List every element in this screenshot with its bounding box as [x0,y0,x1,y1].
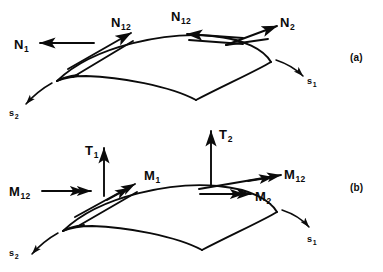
arrow-N2 [226,26,277,45]
coord-axis-s1-a [276,60,303,76]
label-M2: M2 [255,188,271,204]
label-s1-b-sub: 1 [313,239,317,246]
shell-element-b [63,185,277,250]
label-s1-panel-a: s1 [307,71,316,87]
label-M12-right-base: M [284,167,295,182]
label-M1-base: M [144,168,155,183]
panel-label-b: (b) [350,182,363,193]
label-M12-right-sub: 12 [296,174,306,184]
label-s2-b-base: s [9,248,14,258]
label-N12-right-sub: 12 [181,16,191,26]
label-M12-right: M12 [284,166,305,182]
label-T1-sub: 1 [94,150,99,160]
panel-label-a: (a) [350,52,363,63]
panel-a-graphics [26,26,303,104]
shell-b-bottom-edge [63,226,202,250]
shell-a-bottom-edge [57,76,196,100]
label-M2-base: M [255,189,266,204]
label-N1-sub: 1 [24,44,29,54]
label-N12-left: N12 [111,14,130,30]
label-M1-sub: 1 [156,175,161,185]
label-s2-panel-a: s2 [9,103,18,119]
label-T2-base: T [219,127,227,142]
label-s1-panel-b: s1 [307,229,316,245]
label-M12-left: M12 [9,183,30,199]
coord-axis-s2-a [26,83,52,104]
label-M2-sub: 2 [267,196,272,206]
shell-b-top-edge [63,185,277,231]
figure-vector-canvas [0,0,383,272]
label-N1-base: N [14,37,24,52]
arrow-N12-left [68,33,133,77]
label-N2-base: N [280,15,290,30]
label-s1-a-sub: 1 [313,81,317,88]
label-N2-sub: 2 [290,22,295,32]
label-s2-a-sub: 2 [15,113,19,120]
label-M12-left-base: M [9,184,20,199]
label-T1-base: T [85,143,93,158]
label-N1: N1 [14,36,29,52]
label-N12-right-base: N [171,9,181,24]
coord-axis-s1-b [282,210,309,227]
label-s2-b-sub: 2 [15,253,19,260]
label-s1-b-base: s [307,234,312,244]
shell-a-right-edge [196,62,271,100]
label-N12-right: N12 [171,8,190,24]
label-s1-a-base: s [307,76,312,86]
coord-axis-s2-b [32,233,58,254]
label-s2-panel-b: s2 [9,243,18,259]
label-s2-a-base: s [9,108,14,118]
label-N2: N2 [280,14,295,30]
label-T2-sub: 2 [228,134,233,144]
shell-resultants-figure: N1 N12 N12 N2 s1 s2 (a) T1 T2 M12 M1 M2 … [0,0,383,272]
shell-b-right-edge [202,212,277,250]
label-M12-left-sub: 12 [21,191,31,201]
label-N12-left-sub: 12 [121,22,131,32]
label-N12-left-base: N [111,15,121,30]
label-M1: M1 [144,167,160,183]
label-T1: T1 [85,142,98,158]
label-T2: T2 [219,126,232,142]
